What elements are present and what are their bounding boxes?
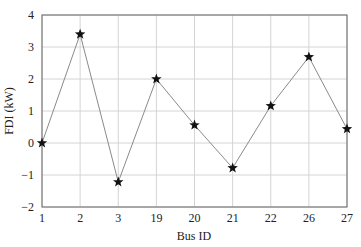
x-tick-label: 22 [265,211,277,225]
y-tick-label: 4 [28,8,34,22]
x-tick-label: 19 [150,211,162,225]
x-tick-label: 1 [39,211,45,225]
x-axis-ticks: 123192021222627 [39,211,353,225]
x-axis-label: Bus ID [177,229,212,243]
y-tick-label: −2 [21,200,34,214]
x-tick-label: 26 [303,211,315,225]
y-tick-label: 3 [28,40,34,54]
x-tick-label: 21 [227,211,239,225]
y-tick-label: 1 [28,104,34,118]
y-tick-label: −1 [21,168,34,182]
y-axis-ticks: −2−101234 [21,8,34,214]
grid-lines [42,15,347,207]
x-tick-label: 3 [115,211,121,225]
line-chart: −2−101234 123192021222627 Bus ID FDI (kW… [0,0,361,247]
x-tick-label: 20 [189,211,201,225]
x-tick-label: 27 [341,211,353,225]
y-tick-label: 2 [28,72,34,86]
x-tick-label: 2 [77,211,83,225]
y-tick-label: 0 [28,136,34,150]
y-axis-label: FDI (kW) [2,87,16,135]
